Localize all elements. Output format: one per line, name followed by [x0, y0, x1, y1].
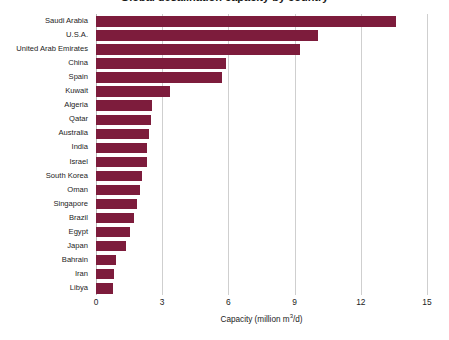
bar — [96, 115, 151, 125]
x-axis-title-tail: /d) — [293, 315, 303, 324]
plot-area — [96, 14, 427, 295]
category-label: United Arab Emirates — [0, 42, 92, 56]
bar-row — [96, 98, 427, 112]
bar-row — [96, 126, 427, 140]
category-label: China — [0, 56, 92, 70]
category-label: Spain — [0, 70, 92, 84]
bar-row — [96, 112, 427, 126]
category-label: Australia — [0, 126, 92, 140]
bar — [96, 199, 137, 209]
x-tick-label: 3 — [160, 297, 165, 307]
bar-row — [96, 70, 427, 84]
bar-row — [96, 183, 427, 197]
bar — [96, 269, 114, 279]
category-label: Libya — [0, 281, 92, 295]
bar — [96, 44, 300, 54]
chart-title: Global desalination capacity by country — [0, 0, 449, 4]
bar — [96, 213, 134, 223]
bar — [96, 86, 170, 96]
category-label: Qatar — [0, 112, 92, 126]
bar-row — [96, 211, 427, 225]
category-label: India — [0, 140, 92, 154]
category-label: Bahrain — [0, 253, 92, 267]
category-label: Egypt — [0, 225, 92, 239]
x-tick-label: 0 — [94, 297, 99, 307]
x-axis-title-main: Capacity (million m — [220, 315, 289, 324]
value-axis-ticks: 03691215 — [96, 297, 427, 311]
category-axis-labels: Saudi ArabiaU.S.A.United Arab EmiratesCh… — [0, 14, 92, 295]
gridline-15 — [427, 14, 428, 295]
category-label: Saudi Arabia — [0, 14, 92, 28]
bar-row — [96, 155, 427, 169]
x-tick-label: 15 — [422, 297, 431, 307]
bar-chart: Global desalination capacity by country … — [0, 0, 449, 340]
bar — [96, 100, 152, 110]
bar — [96, 241, 126, 251]
bar — [96, 143, 147, 153]
bar-row — [96, 84, 427, 98]
category-label: Israel — [0, 155, 92, 169]
bar — [96, 72, 222, 82]
bar — [96, 227, 130, 237]
bar-row — [96, 197, 427, 211]
category-label: Kuwait — [0, 84, 92, 98]
bar-row — [96, 239, 427, 253]
bar-row — [96, 225, 427, 239]
bar — [96, 30, 318, 40]
x-tick-label: 9 — [292, 297, 297, 307]
bar-row — [96, 28, 427, 42]
bar — [96, 129, 149, 139]
category-label: Brazil — [0, 211, 92, 225]
bar — [96, 283, 113, 293]
category-label: U.S.A. — [0, 28, 92, 42]
bars-container — [96, 14, 427, 295]
bar — [96, 58, 226, 68]
bar — [96, 16, 396, 26]
bar — [96, 255, 116, 265]
bar-row — [96, 267, 427, 281]
category-label: Oman — [0, 183, 92, 197]
category-label: Singapore — [0, 197, 92, 211]
x-tick-label: 12 — [356, 297, 365, 307]
category-label: Japan — [0, 239, 92, 253]
bar — [96, 185, 140, 195]
bar-row — [96, 42, 427, 56]
bar-row — [96, 14, 427, 28]
bar-row — [96, 140, 427, 154]
bar-row — [96, 56, 427, 70]
bar — [96, 157, 147, 167]
bar-row — [96, 281, 427, 295]
category-label: South Korea — [0, 169, 92, 183]
bar-row — [96, 169, 427, 183]
x-axis-title: Capacity (million m3/d) — [96, 315, 427, 324]
bar-row — [96, 253, 427, 267]
category-label: Algeria — [0, 98, 92, 112]
bar — [96, 171, 142, 181]
x-tick-label: 6 — [226, 297, 231, 307]
category-label: Iran — [0, 267, 92, 281]
